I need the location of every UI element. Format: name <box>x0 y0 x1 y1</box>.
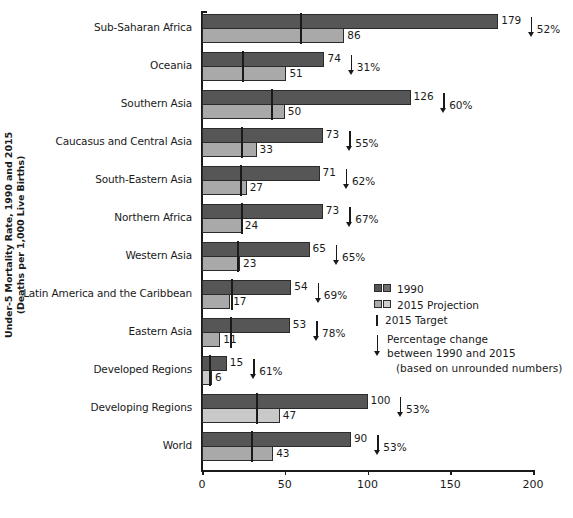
value-label-1990: 126 <box>411 89 434 104</box>
down-arrow-icon <box>312 320 321 342</box>
percentage-change-group: 31% <box>347 54 380 76</box>
percentage-change-group: 60% <box>439 92 472 114</box>
percentage-change-label: 62% <box>351 168 375 188</box>
down-arrow-icon <box>396 396 405 418</box>
value-label-2015-projection: 23 <box>240 256 256 271</box>
bar-2015-projection <box>202 218 242 233</box>
bar-row: 712762% <box>202 166 533 197</box>
value-label-1990: 65 <box>310 241 326 256</box>
legend-entry-2015-target: 2015 Target <box>374 313 570 328</box>
legend-entry-percentage-change: Percentage change between 1990 and 2015 … <box>374 332 570 376</box>
percentage-change-group: 69% <box>314 282 347 304</box>
legend-note-percentage-change: Percentage change between 1990 and 2015 … <box>385 332 562 376</box>
x-axis-tick <box>450 470 452 475</box>
percentage-change-label: 52% <box>536 16 560 36</box>
bar-2015-projection <box>202 332 220 347</box>
percentage-change-group: 78% <box>312 320 345 342</box>
x-axis-tick-label: 0 <box>199 478 206 491</box>
percentage-change-group: 65% <box>332 244 365 266</box>
value-label-2015-projection: 47 <box>280 408 296 423</box>
down-arrow-icon <box>332 244 341 266</box>
legend-swatch-2015-projection <box>374 300 392 308</box>
bar-1990 <box>202 166 320 181</box>
x-axis-tick-label: 150 <box>440 478 461 491</box>
value-label-1990: 54 <box>291 279 307 294</box>
legend-entry-2015-projection: 2015 Projection <box>374 298 570 313</box>
bar-1990 <box>202 90 411 105</box>
bar-row: 1798652% <box>202 14 533 45</box>
value-label-2015-projection: 50 <box>285 104 301 119</box>
value-label-2015-projection: 43 <box>273 446 289 461</box>
percentage-change-label: 78% <box>321 320 345 340</box>
bar-2015-projection <box>202 408 280 423</box>
down-arrow-icon <box>342 168 351 190</box>
value-label-2015-projection: 11 <box>220 332 236 347</box>
percentage-change-label: 60% <box>448 92 472 112</box>
value-label-1990: 90 <box>351 431 367 446</box>
bar-1990 <box>202 14 498 29</box>
bar-1990 <box>202 52 324 67</box>
percentage-change-label: 53% <box>405 396 429 416</box>
value-label-2015-projection: 33 <box>257 142 273 157</box>
percentage-change-group: 61% <box>249 358 282 380</box>
value-label-1990: 179 <box>498 13 521 28</box>
value-label-1990: 71 <box>320 165 336 180</box>
x-axis-tick-label: 100 <box>357 478 378 491</box>
category-label: Caucasus and Central Asia <box>56 135 192 147</box>
percentage-change-label: 67% <box>354 206 378 226</box>
y-axis-title-line-1: Under-5 Mortality Rate, 1990 and 2015 <box>3 132 15 338</box>
value-label-2015-projection: 51 <box>286 66 302 81</box>
bar-row: 1265060% <box>202 90 533 121</box>
bar-2015-projection <box>202 28 344 43</box>
category-label: World <box>163 439 192 451</box>
down-arrow-icon <box>345 130 354 152</box>
percentage-change-label: 53% <box>382 434 406 454</box>
category-label: Western Asia <box>125 249 192 261</box>
category-label: Developed Regions <box>93 363 192 375</box>
bar-2015-projection <box>202 66 286 81</box>
bar-2015-projection <box>202 142 257 157</box>
target-marker <box>241 127 243 158</box>
value-label-2015-projection: 27 <box>247 180 263 195</box>
value-label-2015-projection: 6 <box>212 370 222 385</box>
bar-row: 652365% <box>202 242 533 273</box>
down-arrow-icon <box>347 54 356 76</box>
chart-legend: 1990 2015 Projection 2015 Target Percent… <box>374 282 570 376</box>
category-label: Developing Regions <box>90 401 192 413</box>
legend-label-2015-target: 2015 Target <box>378 313 448 328</box>
legend-note-line-1: Percentage change <box>387 332 562 347</box>
bar-row: 732467% <box>202 204 533 235</box>
x-axis-tick-label: 50 <box>278 478 292 491</box>
bar-row: 745131% <box>202 52 533 83</box>
bar-row: 733355% <box>202 128 533 159</box>
down-arrow-icon <box>527 16 536 38</box>
value-label-2015-projection: 86 <box>344 28 360 43</box>
down-arrow-icon <box>374 333 385 359</box>
category-axis-labels: Sub-Saharan AfricaOceaniaSouthern AsiaCa… <box>24 8 196 468</box>
target-marker <box>240 165 242 196</box>
x-axis-tick <box>202 470 204 475</box>
target-marker <box>271 89 273 120</box>
percentage-change-group: 52% <box>527 16 560 38</box>
percentage-change-group: 67% <box>345 206 378 228</box>
percentage-change-label: 69% <box>323 282 347 302</box>
bar-1990 <box>202 432 351 447</box>
bar-1990 <box>202 280 291 295</box>
category-label: Oceania <box>150 59 192 71</box>
bar-1990 <box>202 204 323 219</box>
percentage-change-label: 55% <box>354 130 378 150</box>
percentage-change-group: 53% <box>396 396 429 418</box>
x-axis-tick <box>285 470 287 475</box>
bar-1990 <box>202 356 227 371</box>
percentage-change-label: 61% <box>258 358 282 378</box>
percentage-change-group: 55% <box>345 130 378 152</box>
legend-note-line-3: (based on unrounded numbers) <box>387 361 562 376</box>
bar-2015-projection <box>202 446 273 461</box>
x-axis-tick <box>368 470 370 475</box>
bar-1990 <box>202 318 290 333</box>
bar-row: 1004753% <box>202 394 533 425</box>
bar-row: 904353% <box>202 432 533 463</box>
bar-2015-projection <box>202 294 230 309</box>
legend-label-1990: 1990 <box>392 282 424 297</box>
down-arrow-icon <box>249 358 258 380</box>
